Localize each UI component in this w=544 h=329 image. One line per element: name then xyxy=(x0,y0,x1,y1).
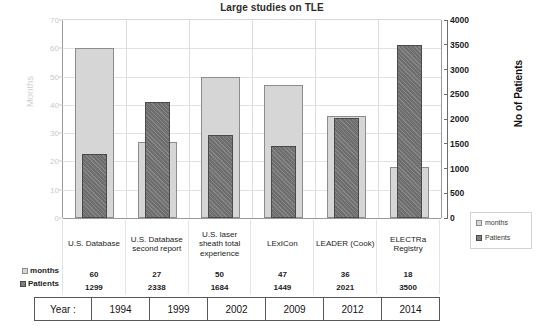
value-cell: 60 xyxy=(63,268,126,281)
year-cell: 2012 xyxy=(324,298,382,321)
year-cell: 2014 xyxy=(382,298,440,321)
plot-baseline xyxy=(63,218,441,219)
left-tick-label: 60 xyxy=(50,44,59,53)
year-table: Year : 199419992002200920122014 xyxy=(34,297,440,321)
tick-mark xyxy=(444,20,448,21)
value-cell: 1299 xyxy=(63,281,126,294)
right-tick-label: 500 xyxy=(450,188,464,198)
value-cell: 47 xyxy=(251,268,314,281)
legend-swatch-months-icon xyxy=(476,220,482,226)
legend-swatch-patients-icon xyxy=(476,235,482,241)
table-row: 129923381684144920213500 xyxy=(63,281,440,294)
bar-patients[interactable] xyxy=(271,146,296,218)
right-tick-label: 2500 xyxy=(450,89,469,99)
row-swatch-patients-icon xyxy=(20,281,26,287)
bar-patients[interactable] xyxy=(145,102,170,218)
category-cell: U.S. Database xyxy=(63,220,126,268)
tick-mark xyxy=(59,161,63,162)
tick-mark xyxy=(59,104,63,105)
bar-patients[interactable] xyxy=(334,118,359,218)
year-row: Year : 199419992002200920122014 xyxy=(35,298,440,321)
year-cell: 1999 xyxy=(150,298,208,321)
left-tick-label: 20 xyxy=(50,157,59,166)
tick-mark xyxy=(59,76,63,77)
table-row: 602750473618 xyxy=(63,268,440,281)
tick-mark xyxy=(59,189,63,190)
right-tick-label: 1000 xyxy=(450,164,469,174)
tick-mark xyxy=(444,119,448,120)
category-cell: ELECTRa Registry xyxy=(377,220,440,268)
chart-legend: months Patients xyxy=(470,212,532,249)
tick-mark xyxy=(59,133,63,134)
category-cell: U.S. laser sheath total experience xyxy=(188,220,251,268)
legend-item-months[interactable]: months xyxy=(476,217,527,228)
value-cell: 2338 xyxy=(125,281,188,294)
tick-mark xyxy=(444,69,448,70)
category-separator xyxy=(315,20,316,218)
row-label-months: months xyxy=(30,266,59,275)
table-row-header-patients: Patients xyxy=(0,277,62,290)
right-tick-label: 1500 xyxy=(450,139,469,149)
right-axis-title: No of Patients xyxy=(513,34,524,154)
legend-label-patients: Patients xyxy=(485,232,510,243)
chart-title: Large studies on TLE xyxy=(0,2,544,13)
category-cell: U.S. Database second report xyxy=(125,220,188,268)
value-cell: 1684 xyxy=(188,281,251,294)
right-tick-label: 3500 xyxy=(450,40,469,50)
left-tick-label: 30 xyxy=(50,129,59,138)
tick-mark xyxy=(444,193,448,194)
tick-mark xyxy=(444,168,448,169)
category-separator xyxy=(252,20,253,218)
bar-patients[interactable] xyxy=(397,45,422,218)
right-tick-label: 3000 xyxy=(450,65,469,75)
chart-page: Large studies on TLE Months No of Patien… xyxy=(0,0,544,329)
left-tick-label: 50 xyxy=(50,72,59,81)
value-cell: 3500 xyxy=(377,281,440,294)
value-cell: 2021 xyxy=(314,281,377,294)
category-cell: LExICon xyxy=(251,220,314,268)
tick-mark xyxy=(59,48,63,49)
row-swatch-months-icon xyxy=(22,268,28,274)
row-label-patients: Patients xyxy=(28,279,59,288)
left-tick-label: 40 xyxy=(50,100,59,109)
bar-patients[interactable] xyxy=(208,135,233,218)
value-cell: 50 xyxy=(188,268,251,281)
plot-area: 010203040506070 050010001500200025003000… xyxy=(62,20,442,218)
left-tick-label: 70 xyxy=(50,16,59,25)
tick-mark xyxy=(444,94,448,95)
left-tick-label: 10 xyxy=(50,185,59,194)
value-cell: 36 xyxy=(314,268,377,281)
bar-patients[interactable] xyxy=(82,154,107,218)
value-cell: 18 xyxy=(377,268,440,281)
value-cell: 1449 xyxy=(251,281,314,294)
category-cell: LEADER (Cook) xyxy=(314,220,377,268)
left-axis-title: Months xyxy=(24,37,35,147)
right-tick-label: 0 xyxy=(450,213,455,223)
left-tick-label: 0 xyxy=(55,214,59,223)
year-cell: 1994 xyxy=(92,298,150,321)
year-row-label: Year : xyxy=(35,298,92,321)
year-cell: 2009 xyxy=(266,298,324,321)
tick-mark xyxy=(59,20,63,21)
tick-mark xyxy=(444,44,448,45)
legend-label-months: months xyxy=(485,217,508,228)
table-row-header-months: months xyxy=(0,264,62,277)
category-separator xyxy=(378,20,379,218)
table-row: U.S. DatabaseU.S. Database second report… xyxy=(63,220,440,268)
right-tick-label: 4000 xyxy=(450,15,469,25)
right-tick-label: 2000 xyxy=(450,114,469,124)
category-separator xyxy=(126,20,127,218)
value-cell: 27 xyxy=(125,268,188,281)
year-cell: 2002 xyxy=(208,298,266,321)
legend-item-patients[interactable]: Patients xyxy=(476,232,527,243)
right-axis-line xyxy=(447,20,448,219)
tick-mark xyxy=(444,218,448,219)
data-table: U.S. DatabaseU.S. Database second report… xyxy=(62,220,440,294)
category-separator xyxy=(189,20,190,218)
tick-mark xyxy=(444,143,448,144)
tick-mark xyxy=(59,218,63,219)
